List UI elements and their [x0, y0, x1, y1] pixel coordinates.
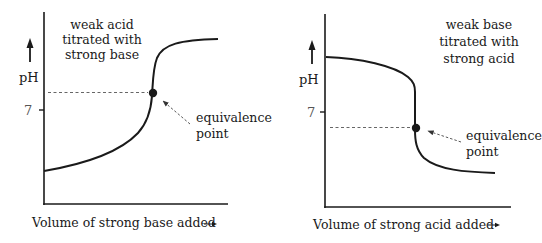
left-ph-up-arrow-icon — [27, 38, 34, 62]
left-title-line-3: strong base — [65, 47, 139, 62]
right-annotation-line-2: point — [466, 144, 499, 159]
right-x-axis-label: Volume of strong acid added — [312, 217, 494, 232]
left-annotation-line-1: equivalence — [196, 110, 272, 125]
left-ph-label: pH — [19, 70, 39, 85]
titration-diagrams: pH 7 weak acid titrated with strong base… — [0, 0, 542, 243]
left-equivalence-pointer-arrow-icon — [163, 101, 190, 124]
left-title-line-2: titrated with — [62, 32, 142, 47]
left-ph7-label: 7 — [24, 103, 32, 118]
right-title-line-2: titrated with — [439, 34, 519, 49]
right-ph-label: pH — [299, 72, 319, 87]
right-equivalence-point-dot — [412, 124, 420, 132]
right-diagram: pH 7 weak base titrated with strong acid… — [299, 14, 542, 232]
right-ph-up-arrow-icon — [309, 40, 316, 64]
right-title-line-1: weak base — [446, 17, 512, 32]
right-title-line-3: strong acid — [443, 51, 514, 66]
left-diagram: pH 7 weak acid titrated with strong base… — [19, 12, 272, 230]
left-equivalence-point-dot — [149, 89, 157, 97]
right-equivalence-pointer-arrow-icon — [428, 131, 461, 142]
right-ph7-label: 7 — [307, 105, 315, 120]
right-annotation-line-1: equivalence — [466, 128, 542, 143]
left-annotation-line-2: point — [196, 126, 229, 141]
left-x-axis-label: Volume of strong base added — [31, 215, 216, 230]
left-title-line-1: weak acid — [70, 17, 134, 32]
